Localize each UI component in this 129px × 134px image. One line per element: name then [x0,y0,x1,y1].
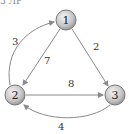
edge-weight-label: 3 [12,36,18,47]
edge-1-to-2: 7 [23,29,60,85]
edge-weight-label: 2 [93,41,99,52]
graph-diagram: 2 7 3 8 4 1 2 3 [0,0,129,134]
edge-weight-label: 8 [68,78,74,89]
edge-weight-label: 4 [58,121,64,132]
edge-3-to-2: 4 [24,105,110,132]
node-3: 3 [105,85,125,105]
node-label: 1 [63,14,70,27]
node-1: 1 [56,10,76,30]
node-2: 2 [5,85,25,105]
node-label: 3 [112,89,119,102]
edge-2-to-3: 8 [26,78,103,95]
node-label: 2 [12,89,19,102]
edge-weight-label: 7 [44,55,50,66]
edge-1-to-3: 2 [72,29,108,86]
edge-2-to-1: 3 [9,22,54,85]
